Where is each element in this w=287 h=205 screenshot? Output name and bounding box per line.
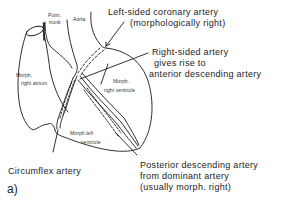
callout-line: Posterior descending artery: [140, 160, 258, 171]
callout-line: Left-sided coronary artery: [108, 7, 225, 18]
pulm-trunk-label: Pulm.: [48, 13, 61, 18]
right-ventricle-label: Morph.: [113, 79, 129, 84]
superior-vena-cava-opening: [25, 24, 45, 38]
callout-line: (morphologically right): [108, 18, 225, 29]
right-sided-callout: Right-sided artery gives rise to anterio…: [152, 47, 261, 80]
left-coronary-callout: Left-sided coronary artery (morphologica…: [108, 7, 225, 29]
heart-diagram: Pulm. trunk Aorta Morph. right atrium Mo…: [0, 0, 287, 205]
pulm-trunk-label-2: trunk: [49, 20, 61, 25]
callout-line: anterior descending artery: [148, 69, 261, 80]
callout-line: Right-sided artery: [152, 47, 261, 58]
circumflex-callout: Circumflex artery: [8, 166, 81, 177]
panel-label: a): [7, 183, 18, 195]
circumflex-leader: [53, 130, 58, 152]
callout-line: gives rise to: [152, 58, 261, 69]
left-ventricle-label: Morph.left: [70, 131, 93, 136]
posterior-descending-callout: Posterior descending artery from dominan…: [140, 160, 258, 193]
right-atrium-label-2: right atrium: [21, 81, 47, 86]
right-ventricle-label-2: right ventricle: [104, 88, 135, 93]
callout-line: from dominant artery: [140, 171, 258, 182]
callout-line: (usually morph. right): [140, 182, 258, 193]
aorta-label: Aorta: [73, 17, 85, 22]
right-atrium-label: Morph.: [16, 73, 32, 78]
aorta-outline: [67, 20, 77, 78]
left-ventricle-label-2: ventricle: [81, 140, 101, 145]
